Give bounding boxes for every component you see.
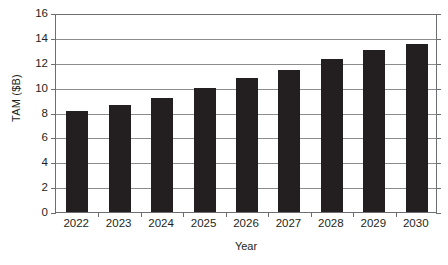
x-axis-tick-mark [353,212,354,217]
x-axis-tick-mark [268,212,269,217]
plot-area [55,14,437,213]
x-axis-tick-mark [311,212,312,217]
y-axis-tick-mark [51,213,56,214]
x-axis-tick-label: 2024 [148,218,174,230]
x-axis-tick-label: 2022 [63,218,89,230]
y-axis-title: TAM ($B) [10,53,22,143]
bar [194,88,216,212]
y-axis-tick-mark-right [436,163,441,164]
y-axis-tick-mark-right [436,89,441,90]
y-axis-tick-label: 16 [26,8,48,20]
bar [363,50,385,212]
y-axis-tick-label: 2 [26,182,48,194]
y-axis-tick-mark-right [436,114,441,115]
bar [406,44,428,212]
y-axis-tick-mark-right [436,213,441,214]
y-axis-tick-mark-right [436,39,441,40]
bar [278,70,300,212]
x-axis-tick-label: 2028 [318,218,344,230]
x-axis-tick-mark [226,212,227,217]
y-axis-tick-label: 14 [26,33,48,45]
y-axis-tick-label: 10 [26,83,48,95]
bar-chart: TAM ($B) 0246810121416 20222023202420252… [0,0,448,265]
y-axis-tick-label: 12 [26,58,48,70]
x-axis-tick-label: 2023 [106,218,132,230]
x-axis-tick-labels: 202220232024202520262027202820292030 [55,218,437,234]
y-axis-tick-label: 8 [26,108,48,120]
bar [321,59,343,212]
bar [109,105,131,212]
bar [236,78,258,212]
x-axis-tick-mark [141,212,142,217]
y-axis-tick-mark-right [436,64,441,65]
y-axis-tick-label: 6 [26,133,48,145]
y-axis-tick-mark-right [436,138,441,139]
y-axis-tick-label: 0 [26,207,48,219]
x-axis-tick-label: 2029 [361,218,387,230]
x-axis-title: Year [55,240,437,252]
y-axis-tick-label: 4 [26,158,48,170]
x-axis-tick-label: 2026 [233,218,259,230]
bar [66,111,88,212]
x-axis-tick-label: 2027 [276,218,302,230]
x-axis-tick-mark [396,212,397,217]
y-axis-tick-mark-right [436,188,441,189]
bar-series [56,14,436,212]
x-axis-tick-mark [98,212,99,217]
x-axis-tick-label: 2025 [191,218,217,230]
y-axis-tick-mark-right [436,14,441,15]
x-axis-tick-mark [183,212,184,217]
bar [151,98,173,212]
x-axis-tick-label: 2030 [403,218,429,230]
y-axis-tick-labels: 0246810121416 [26,14,48,213]
